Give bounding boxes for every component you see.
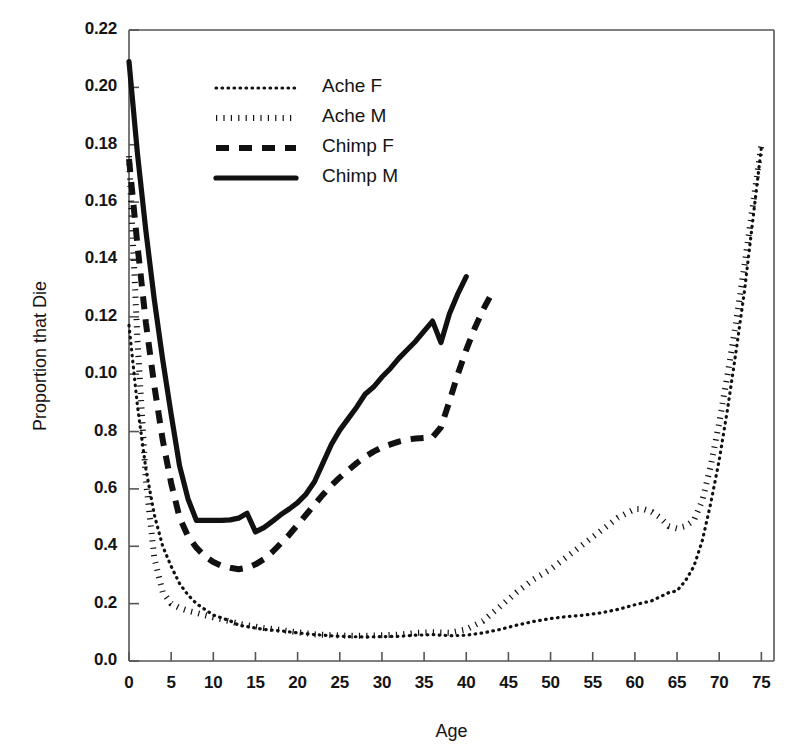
x-tick-label: 45 bbox=[486, 673, 530, 693]
chart-figure: 051015202530354045505560657075 0.220.200… bbox=[0, 0, 799, 756]
x-tick-label: 75 bbox=[739, 673, 783, 693]
legend-swatches bbox=[216, 88, 296, 178]
x-tick-label: 20 bbox=[276, 673, 320, 693]
series-line-chimp-m bbox=[129, 62, 466, 532]
x-tick-label: 70 bbox=[697, 673, 741, 693]
series-line-chimp-f bbox=[129, 159, 492, 569]
plot-area bbox=[0, 0, 799, 756]
y-tick-label: 0.12 bbox=[51, 306, 117, 326]
legend-label-ache-m: Ache M bbox=[322, 105, 386, 127]
x-tick-label: 25 bbox=[318, 673, 362, 693]
y-tick-label: 0.4 bbox=[51, 535, 117, 555]
y-tick-label: 0.22 bbox=[51, 19, 117, 39]
y-tick-label: 0.0 bbox=[51, 650, 117, 670]
x-axis-ticks bbox=[129, 652, 761, 661]
x-tick-label: 60 bbox=[613, 673, 657, 693]
series-line-ache-f bbox=[129, 148, 761, 637]
x-tick-label: 15 bbox=[233, 673, 277, 693]
y-axis-title: Proportion that Die bbox=[30, 280, 51, 430]
x-tick-label: 0 bbox=[107, 673, 151, 693]
x-axis-title: Age bbox=[412, 721, 492, 742]
y-tick-label: 0.10 bbox=[51, 363, 117, 383]
legend-label-chimp-m: Chimp M bbox=[322, 165, 398, 187]
x-tick-label: 35 bbox=[402, 673, 446, 693]
x-tick-label: 5 bbox=[149, 673, 193, 693]
x-tick-label: 40 bbox=[444, 673, 488, 693]
x-tick-label: 50 bbox=[529, 673, 573, 693]
series-line-ache-m bbox=[129, 145, 761, 636]
y-tick-label: 0.18 bbox=[51, 134, 117, 154]
x-tick-label: 55 bbox=[571, 673, 615, 693]
y-tick-label: 0.6 bbox=[51, 478, 117, 498]
x-tick-label: 30 bbox=[360, 673, 404, 693]
legend-label-chimp-f: Chimp F bbox=[322, 135, 394, 157]
y-tick-label: 0.2 bbox=[51, 593, 117, 613]
y-tick-label: 0.20 bbox=[51, 76, 117, 96]
axis-frame bbox=[129, 30, 774, 661]
x-tick-label: 65 bbox=[655, 673, 699, 693]
x-tick-label: 10 bbox=[191, 673, 235, 693]
legend-label-ache-f: Ache F bbox=[322, 75, 382, 97]
y-tick-label: 0.16 bbox=[51, 191, 117, 211]
y-tick-label: 0.14 bbox=[51, 248, 117, 268]
y-tick-label: 0.8 bbox=[51, 421, 117, 441]
